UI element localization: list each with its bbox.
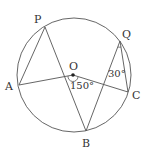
angle-label-30: 30° [108,68,126,79]
label-A: A [4,80,14,93]
label-C: C [132,89,140,102]
geometry-diagram: O P A B C Q 150° 30° [0,0,145,153]
segment-AO [19,75,73,85]
label-P: P [34,13,42,26]
segment-PA [19,27,45,85]
label-Q: Q [122,28,131,41]
segment-QC [120,41,128,92]
angle-label-150: 150° [70,80,94,91]
label-B: B [82,137,90,150]
label-O: O [69,60,78,73]
center-dot [71,73,75,77]
